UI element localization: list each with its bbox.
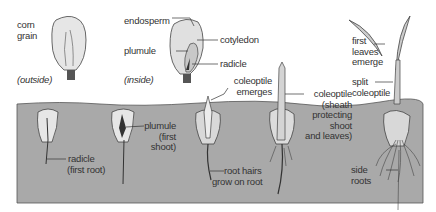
label-stage5-first-leaves: first leaves emerge [352,36,383,68]
label-endosperm: endosperm [124,16,170,27]
label-line: first [352,36,383,47]
label-line: coleoptile [352,88,390,99]
label-line: protecting [300,110,352,121]
label-line: plumule [144,121,176,132]
label-line: emerge [352,57,383,68]
label-plumule: plumule [124,46,156,57]
label-line: corn [17,20,37,31]
label-line: side [351,165,371,176]
label-stage5-side-roots: side roots [351,165,371,186]
label-cotyledon: cotyledon [220,35,259,46]
label-line: radicle [67,154,105,165]
label-corn-grain: corn grain [17,20,37,41]
label-stage1-radicle: radicle (first root) [67,154,105,175]
label-stage2-plumule: plumule (first shoot) [144,121,176,153]
label-line: root hairs [212,166,262,177]
label-stage3-root-hairs: root hairs grow on root [212,166,262,187]
label-line: grain [17,31,37,42]
label-line: shoot) [144,142,176,153]
label-radicle: radicle [220,59,247,70]
corn-grain-outside-icon [52,16,86,80]
label-line: emerges [222,87,272,98]
label-line: roots [351,176,371,187]
label-line: coleoptile [300,89,352,100]
label-stage4-coleoptile: coleoptile (sheath protecting shoot and … [300,89,352,142]
label-stage5-split-coleoptile: split coleoptile [352,77,390,98]
label-line: coleoptile [222,76,272,87]
corn-grain-inside-icon [170,18,218,83]
label-line: and leaves) [300,131,352,142]
label-stage3-coleoptile-emerges: coleoptile emerges [222,76,272,97]
label-inside: (inside) [124,75,154,86]
label-line: grow on root [212,177,262,188]
label-line: (first root) [67,165,105,176]
label-outside: (outside) [17,75,52,86]
label-line: split [352,77,390,88]
